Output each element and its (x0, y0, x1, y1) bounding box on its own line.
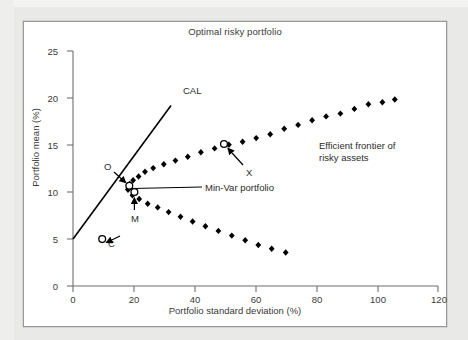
x-axis-ticks (73, 286, 438, 292)
m-min-var-marker (131, 189, 138, 196)
chart-panel: Optimal risky portfolio Portfolio standa… (23, 21, 447, 327)
efficient-frontier-lower-markers (125, 186, 289, 255)
x-point-marker (221, 141, 228, 148)
c-complete-portfolio-marker (99, 236, 106, 243)
plot-area (24, 22, 446, 326)
c-label-arrow (107, 236, 121, 243)
x-label-arrow (228, 149, 243, 166)
o-optimal-risky-portfolio-marker (126, 182, 133, 189)
page-background-top-band (0, 0, 468, 7)
min-var-leader-line (132, 187, 202, 189)
page-background-left-band (0, 0, 14, 340)
figure-page: Optimal risky portfolio Portfolio standa… (0, 0, 468, 340)
y-axis-ticks (67, 51, 73, 286)
efficient-frontier-upper-markers (125, 96, 398, 192)
cal-line (73, 106, 171, 240)
